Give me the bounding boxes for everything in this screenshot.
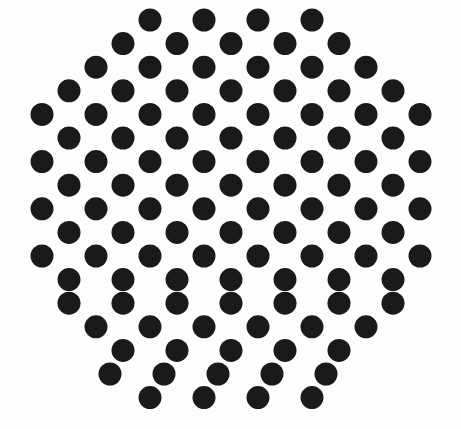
lattice-dot: [274, 174, 297, 197]
lattice-dot: [328, 127, 351, 150]
lattice-dot: [274, 221, 297, 244]
lattice-dot: [58, 268, 81, 291]
lattice-dot: [220, 221, 243, 244]
lattice-dot: [85, 56, 108, 79]
lattice-dot: [355, 197, 378, 220]
lattice-dot: [193, 9, 216, 32]
lattice-dot: [220, 174, 243, 197]
lattice-dot: [112, 79, 135, 102]
lattice-dot: [166, 79, 189, 102]
lattice-dot: [409, 197, 432, 220]
lattice-dot: [355, 315, 378, 338]
lattice-dot: [261, 363, 284, 386]
lattice-dot: [382, 79, 405, 102]
lattice-dot: [355, 56, 378, 79]
lattice-dot: [139, 9, 162, 32]
lattice-dot: [247, 245, 270, 268]
lattice-dot: [301, 9, 324, 32]
lattice-dot: [274, 127, 297, 150]
background-rect: [0, 0, 461, 429]
lattice-dot: [220, 292, 243, 315]
lattice-dot: [409, 103, 432, 126]
lattice-dot: [166, 32, 189, 55]
lattice-dot: [301, 150, 324, 173]
lattice-dot: [112, 221, 135, 244]
lattice-dot: [328, 292, 351, 315]
lattice-dot: [112, 32, 135, 55]
lattice-dot: [166, 221, 189, 244]
lattice-dot: [355, 103, 378, 126]
lattice-dot: [58, 292, 81, 315]
lattice-dot: [112, 339, 135, 362]
lattice-dot: [247, 386, 270, 409]
lattice-dot: [85, 245, 108, 268]
lattice-dot: [58, 127, 81, 150]
lattice-dot: [220, 32, 243, 55]
lattice-dot: [409, 150, 432, 173]
lattice-dot: [207, 363, 230, 386]
lattice-dot: [139, 56, 162, 79]
lattice-dot: [382, 174, 405, 197]
lattice-dot: [139, 315, 162, 338]
lattice-dot: [166, 127, 189, 150]
lattice-dot: [328, 268, 351, 291]
lattice-dot: [220, 268, 243, 291]
lattice-dot: [409, 245, 432, 268]
lattice-dot: [301, 103, 324, 126]
lattice-dot: [85, 197, 108, 220]
lattice-dot: [85, 315, 108, 338]
lattice-dot: [301, 56, 324, 79]
lattice-dot: [193, 150, 216, 173]
lattice-dot: [139, 103, 162, 126]
lattice-dot: [301, 315, 324, 338]
lattice-dot: [166, 292, 189, 315]
lattice-dot: [382, 268, 405, 291]
lattice-dot: [301, 245, 324, 268]
lattice-dot: [193, 245, 216, 268]
lattice-dot: [99, 363, 122, 386]
lattice-dot: [301, 386, 324, 409]
lattice-dot: [193, 315, 216, 338]
lattice-dot: [328, 79, 351, 102]
dot-pattern-canvas: [0, 0, 461, 429]
lattice-dot: [193, 56, 216, 79]
lattice-dot: [328, 221, 351, 244]
lattice-dot: [112, 174, 135, 197]
lattice-dot: [301, 197, 324, 220]
lattice-dot: [58, 221, 81, 244]
lattice-dot: [328, 339, 351, 362]
lattice-dot: [274, 268, 297, 291]
lattice-dot: [31, 197, 54, 220]
lattice-dot: [247, 9, 270, 32]
lattice-dot: [112, 268, 135, 291]
lattice-dot: [85, 150, 108, 173]
lattice-dot: [247, 103, 270, 126]
lattice-dot: [247, 56, 270, 79]
lattice-dot: [139, 150, 162, 173]
lattice-dot: [153, 363, 176, 386]
lattice-dot: [382, 292, 405, 315]
lattice-dot: [247, 315, 270, 338]
lattice-dot: [139, 245, 162, 268]
lattice-dot: [58, 79, 81, 102]
lattice-dot: [112, 292, 135, 315]
lattice-dot: [274, 79, 297, 102]
lattice-dot: [274, 292, 297, 315]
lattice-dot: [328, 174, 351, 197]
lattice-dot: [31, 150, 54, 173]
lattice-dot: [193, 197, 216, 220]
lattice-dot: [193, 103, 216, 126]
lattice-dot: [355, 245, 378, 268]
lattice-dot: [139, 197, 162, 220]
lattice-dot: [193, 386, 216, 409]
lattice-dot: [328, 32, 351, 55]
lattice-dot: [220, 339, 243, 362]
lattice-dot: [85, 103, 108, 126]
lattice-dot: [58, 174, 81, 197]
lattice-dot: [315, 363, 338, 386]
lattice-dot: [220, 79, 243, 102]
lattice-dot: [382, 221, 405, 244]
lattice-dot: [166, 174, 189, 197]
lattice-dot: [355, 150, 378, 173]
lattice-dot: [166, 268, 189, 291]
